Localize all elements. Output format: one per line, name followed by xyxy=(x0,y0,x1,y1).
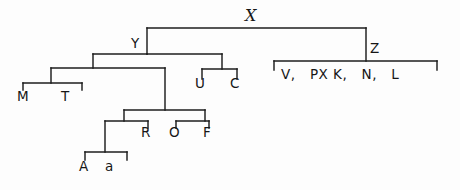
node-label-m: M xyxy=(17,88,29,104)
node-label-a-upper: A xyxy=(79,158,89,174)
node-label-u: U xyxy=(195,75,205,91)
node-label-y: Y xyxy=(130,35,140,51)
node-label-r: R xyxy=(141,124,151,140)
node-label-c: C xyxy=(230,75,240,91)
edge-group-mt xyxy=(23,83,82,90)
node-label-t: T xyxy=(60,88,70,104)
tree-diagram-svg: X Y Z U C M T R O F A a V, PX K, N, L xyxy=(0,0,460,190)
node-label-a-lower: a xyxy=(105,158,114,174)
edge-group-x xyxy=(147,28,366,61)
edge-group-rof xyxy=(124,110,205,121)
z-leaf-row-text: V, PX K, N, L xyxy=(281,66,399,82)
edge-group-y xyxy=(93,54,222,69)
node-label-x: X xyxy=(243,6,257,25)
tree-diagram-canvas: X Y Z U C M T R O F A a V, PX K, N, L xyxy=(0,0,460,190)
node-label-z: Z xyxy=(370,40,380,56)
node-label-f: F xyxy=(203,124,211,140)
node-label-o: O xyxy=(169,124,180,140)
